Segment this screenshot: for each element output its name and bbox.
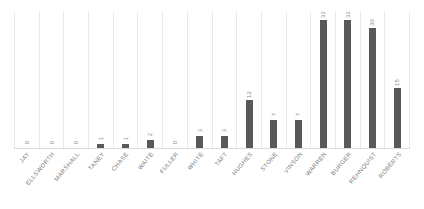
x-label-cell: STONE: [262, 149, 287, 209]
bar-cell[interactable]: 7: [261, 12, 286, 148]
bar[interactable]: [369, 28, 376, 148]
bar-cell[interactable]: 2: [137, 12, 162, 148]
x-label-cell: TAFT: [212, 149, 237, 209]
x-label-cell: FULLER: [163, 149, 188, 209]
bar-value-label: 1: [97, 137, 104, 141]
bar-value-label: 0: [171, 141, 178, 145]
bar[interactable]: [270, 120, 277, 148]
bar[interactable]: [320, 20, 327, 148]
bar-value-label: 7: [270, 113, 277, 117]
bar-value-label: 0: [73, 141, 80, 145]
x-label-cell: WAITE: [138, 149, 163, 209]
bar-cell[interactable]: 1: [113, 12, 138, 148]
x-label-cell: WHITE: [187, 149, 212, 209]
bar-cell[interactable]: 3: [212, 12, 237, 148]
bar[interactable]: [295, 120, 302, 148]
x-label-cell: VINSON: [286, 149, 311, 209]
bar[interactable]: [246, 100, 253, 148]
bar[interactable]: [344, 20, 351, 148]
bar-value-label: 7: [295, 113, 302, 117]
bar-cell[interactable]: 32: [310, 12, 335, 148]
bar-value-label: 0: [23, 141, 30, 145]
x-label-cell: CHASE: [113, 149, 138, 209]
x-label-cell: TANEY: [88, 149, 113, 209]
bar-cell[interactable]: 12: [236, 12, 261, 148]
bar-value-label: 1: [122, 137, 129, 141]
bar-value-label: 3: [196, 129, 203, 133]
bar[interactable]: [196, 136, 203, 148]
bar-value-label: 0: [48, 141, 55, 145]
bar-cell[interactable]: 30: [360, 12, 385, 148]
bar-cell[interactable]: 0: [162, 12, 187, 148]
bar-value-label: 12: [246, 91, 253, 98]
x-label-cell: MARSHALL: [64, 149, 89, 209]
x-label-cell: WARREN: [311, 149, 336, 209]
bar-cell[interactable]: 7: [286, 12, 311, 148]
bar-value-label: 32: [320, 11, 327, 18]
bar-chart: 0 0 0 1 1 2 0 3: [0, 0, 424, 209]
bar-value-label: 3: [221, 129, 228, 133]
bar-cell[interactable]: 0: [39, 12, 64, 148]
x-label-cell: ROBERTS: [385, 149, 410, 209]
bar-value-label: 15: [394, 79, 401, 86]
x-label-cell: HUGHES: [237, 149, 262, 209]
bar-cell[interactable]: 0: [14, 12, 39, 148]
bar-value-label: 30: [369, 19, 376, 26]
bar-value-label: 32: [344, 11, 351, 18]
bar-cell[interactable]: 3: [187, 12, 212, 148]
bar-cell[interactable]: 32: [335, 12, 360, 148]
bar[interactable]: [394, 88, 401, 148]
x-axis-labels: JAY ELLSWORTH MARSHALL TANEY CHASE WAITE…: [14, 149, 410, 209]
bar-value-label: 2: [147, 133, 154, 137]
